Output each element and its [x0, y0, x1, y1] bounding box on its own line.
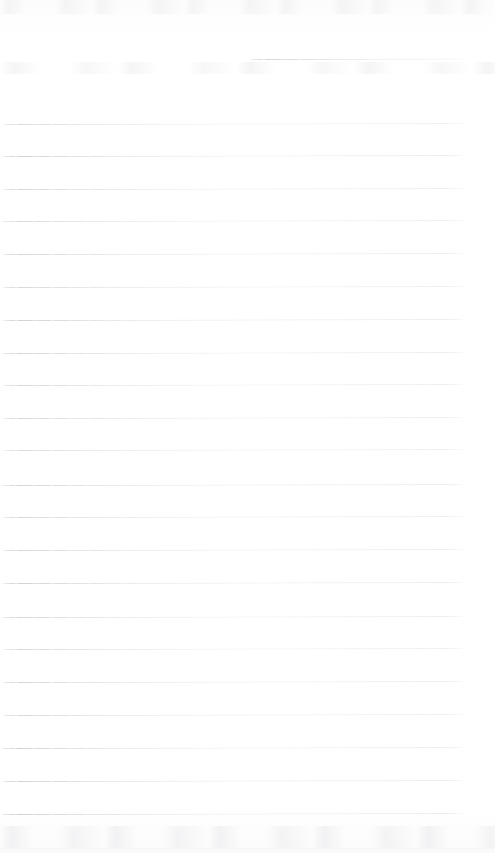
rule-05 [3, 253, 463, 255]
rule-19 [3, 714, 463, 716]
rule-22 [2, 813, 463, 815]
rule-16 [2, 616, 463, 618]
scan-smudge-top [0, 0, 495, 14]
rule-11 [3, 449, 463, 451]
rule-01 [3, 123, 463, 125]
rule-21 [3, 780, 463, 782]
rule-14 [3, 549, 463, 551]
rule-09 [3, 384, 463, 386]
rule-17 [3, 648, 463, 650]
rule-13 [3, 516, 463, 518]
rule-12 [2, 484, 463, 486]
rule-15 [3, 582, 463, 584]
rule-04 [2, 220, 463, 222]
rule-18 [3, 681, 463, 683]
rule-03 [3, 188, 463, 190]
rule-08 [2, 352, 463, 354]
scan-smudge-bottom [0, 826, 495, 848]
rule-06 [3, 286, 463, 288]
rule-07 [3, 319, 463, 321]
paper-surface [0, 0, 495, 853]
rule-10 [3, 417, 463, 419]
scanned-page [0, 0, 495, 853]
rule-02 [3, 155, 463, 157]
rule-20 [2, 747, 463, 749]
scan-smudge-bottom-edge [0, 848, 495, 853]
rule-partial-top [250, 59, 466, 60]
scan-smudge-upper-band [0, 62, 495, 74]
